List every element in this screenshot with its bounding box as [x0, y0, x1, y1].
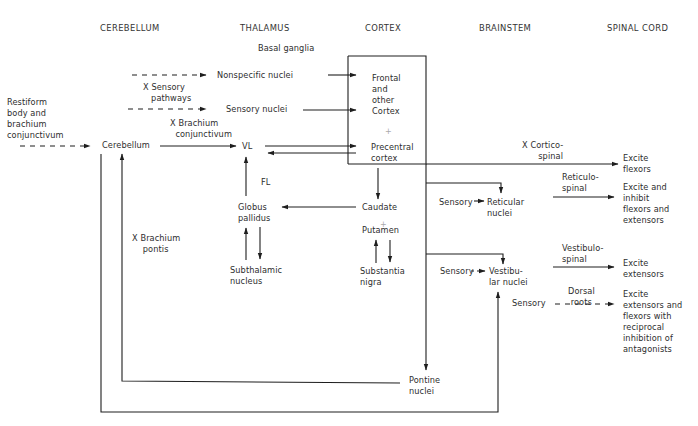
- label-x-brachium-pontis: X Brachium pontis: [132, 233, 180, 255]
- node-subthalamic-nucleus: Subthalamic nucleus: [230, 265, 282, 287]
- node-precentral-cortex: Precentral cortex: [371, 142, 414, 164]
- node-restiform-body: Restiform body and brachium conjunctivum: [7, 97, 64, 141]
- node-vestibular-nuclei: Vestibu- lar nuclei: [489, 266, 528, 288]
- label-fl: FL: [261, 177, 270, 188]
- node-nonspecific-nuclei: Nonspecific nuclei: [217, 70, 293, 81]
- plus-sign-cortex: +: [385, 127, 392, 136]
- node-globus-pallidus: Globus pallidus: [238, 202, 271, 224]
- node-excite-extensors: Excite extensors: [623, 258, 664, 280]
- node-sensory-nuclei: Sensory nuclei: [226, 104, 287, 115]
- node-excite-flexors: Excite flexors: [623, 153, 651, 175]
- node-reticular-nuclei: Reticular nuclei: [487, 197, 524, 219]
- node-pontine-nuclei: Pontine nuclei: [409, 375, 440, 397]
- label-basal-ganglia: Basal ganglia: [258, 43, 314, 54]
- label-dorsal-roots: Dorsal roots: [568, 286, 595, 308]
- label-x-brachium-conjunctivum: X Brachium conjunctivum: [170, 118, 232, 140]
- label-vestibulospinal: Vestibulo- spinal: [562, 243, 604, 265]
- diagram-connections: [0, 0, 698, 426]
- label-x-corticospinal: X Cortico- spinal: [522, 140, 563, 162]
- node-excite-and-inhibit: Excite and inhibit flexors and extensors: [623, 182, 669, 226]
- node-caudate: Caudate: [362, 202, 397, 213]
- node-substantia-nigra: Substantia nigra: [360, 266, 405, 288]
- node-putamen: Putamen: [362, 225, 399, 236]
- node-sensory-reticular: Sensory: [439, 197, 473, 208]
- node-cerebellum: Cerebellum: [102, 140, 150, 151]
- label-x-sensory-pathways: X Sensory pathways: [143, 82, 191, 104]
- node-sensory-vestibular: Sensory: [440, 266, 474, 277]
- node-excite-reciprocal: Excite extensors and flexors with recipr…: [623, 289, 682, 355]
- label-reticulospinal: Reticulo- spinal: [562, 172, 599, 194]
- node-frontal-cortex: Frontal and other Cortex: [372, 73, 401, 117]
- node-sensory-dorsal: Sensory: [512, 298, 546, 309]
- node-vl: VL: [242, 141, 252, 152]
